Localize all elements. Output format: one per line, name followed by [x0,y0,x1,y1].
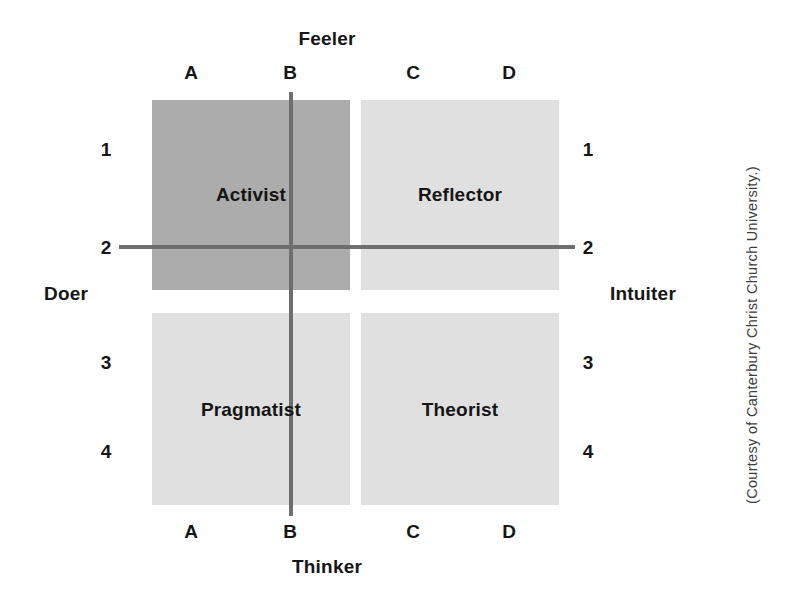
column-letter-top-a: A [180,62,202,84]
row-number-left-1: 1 [96,139,116,161]
column-letter-bottom-c: C [402,521,424,543]
quadrant-pragmatist: Pragmatist [152,313,350,505]
row-number-right-3: 3 [578,352,598,374]
quadrant-activist: Activist [152,100,350,290]
column-letter-bottom-b: B [279,521,301,543]
quadrant-theorist: Theorist [361,313,559,505]
column-letter-top-b: B [279,62,301,84]
row-number-right-1: 1 [578,139,598,161]
axis-line-vertical [289,92,293,516]
figure-credit: (Courtesy of Canterbury Christ Church Un… [744,0,760,104]
quadrant-label-theorist: Theorist [422,399,499,421]
row-number-right-2: 2 [578,237,598,259]
row-number-left-4: 4 [96,441,116,463]
row-number-left-3: 3 [96,352,116,374]
column-letter-top-d: D [498,62,520,84]
quadrant-reflector: Reflector [361,100,559,290]
column-letter-bottom-a: A [180,521,202,543]
axis-label-bottom: Thinker [0,556,806,578]
row-number-left-2: 2 [96,237,116,259]
axis-label-right: Intuiter [610,283,676,305]
quadrant-label-pragmatist: Pragmatist [201,399,301,421]
column-letter-bottom-d: D [498,521,520,543]
column-letter-top-c: C [402,62,424,84]
axis-line-horizontal [119,245,575,249]
learning-styles-quadrant-figure: Feeler A B C D 1 2 3 4 1 2 3 4 Doer Intu… [0,0,806,597]
axis-label-left: Doer [44,283,88,305]
row-number-right-4: 4 [578,441,598,463]
figure-credit-text: (Courtesy of Canterbury Christ Church Un… [744,104,760,504]
quadrant-label-reflector: Reflector [418,184,502,206]
quadrant-label-activist: Activist [216,184,286,206]
axis-label-top: Feeler [0,28,806,50]
